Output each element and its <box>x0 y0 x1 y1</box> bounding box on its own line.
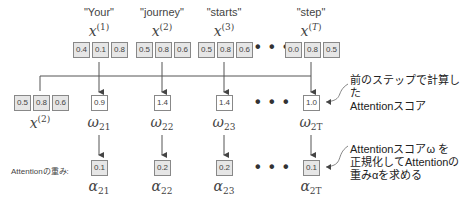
vector-cell: 0.5 <box>14 95 31 111</box>
input-var-2: x(2) <box>132 22 192 39</box>
vector-cell: 0.8 <box>217 42 234 58</box>
weights-label: Attentionの重み: <box>11 165 69 176</box>
vector-cell: 0.6 <box>174 42 191 58</box>
vector-cell: 0.5 <box>198 42 215 58</box>
query-vector: 0.5 0.8 0.6 <box>14 95 69 111</box>
score-box-1: 0.9 <box>91 95 108 111</box>
score-var-1: ω21 <box>69 114 129 132</box>
weight-var-2: α22 <box>132 178 192 196</box>
input-vector-4: 0.0 0.8 0.5 <box>285 42 340 58</box>
ellipsis-scores: • • • <box>255 93 291 111</box>
vector-cell: 0.5 <box>136 42 153 58</box>
weight-var-4: α2T <box>281 178 341 196</box>
score-box-4: 1.0 <box>303 95 320 111</box>
weight-box-2: 0.2 <box>154 160 171 176</box>
input-var-3: x(3) <box>194 22 254 39</box>
vector-cell: 0.6 <box>236 42 253 58</box>
weight-var-3: α23 <box>194 178 254 196</box>
score-box-3: 1.4 <box>216 95 233 111</box>
score-var-4: ω2T <box>281 114 341 132</box>
vector-cell: 0.5 <box>323 42 340 58</box>
token-word-2: "journey" <box>127 6 197 18</box>
ellipsis-weights: • • • <box>255 158 291 176</box>
token-word-1: "Your" <box>64 6 134 18</box>
vector-cell: 0.8 <box>33 95 50 111</box>
vector-cell: 0.0 <box>285 42 302 58</box>
score-var-3: ω23 <box>194 114 254 132</box>
vector-cell: 0.4 <box>73 42 90 58</box>
vector-cell: 0.1 <box>92 42 109 58</box>
input-var-4: x(T) <box>281 22 341 39</box>
vector-cell: 0.8 <box>155 42 172 58</box>
score-box-2: 1.4 <box>154 95 171 111</box>
weight-box-4: 0.1 <box>303 160 320 176</box>
vector-cell: 0.8 <box>304 42 321 58</box>
weight-var-1: α21 <box>69 178 129 196</box>
weight-annotation: Attentionスコアω を 正規化してAttentionの 重みαを求める <box>350 143 459 182</box>
score-annotation: 前のステップで計算した Attentionスコア <box>350 74 463 113</box>
query-var: x(2) <box>10 114 70 131</box>
input-vector-1: 0.4 0.1 0.8 <box>73 42 128 58</box>
token-word-4: "step" <box>276 6 346 18</box>
score-var-2: ω22 <box>132 114 192 132</box>
vector-cell: 0.8 <box>111 42 128 58</box>
token-word-3: "starts" <box>189 6 259 18</box>
weight-box-1: 0.1 <box>91 160 108 176</box>
input-vector-2: 0.5 0.8 0.6 <box>136 42 191 58</box>
input-var-1: x(1) <box>69 22 129 39</box>
input-vector-3: 0.5 0.8 0.6 <box>198 42 253 58</box>
weight-box-3: 0.2 <box>216 160 233 176</box>
vector-cell: 0.6 <box>52 95 69 111</box>
